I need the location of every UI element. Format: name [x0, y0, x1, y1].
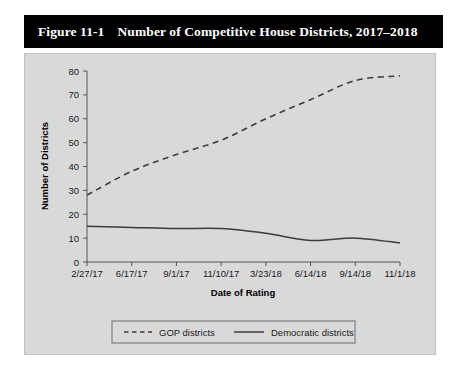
x-axis-title: Date of Rating [211, 287, 276, 298]
x-tick-label: 2/27/17 [71, 268, 103, 279]
series-line-democratic [87, 226, 400, 243]
chart-plot-area: 01020304050607080 2/27/176/17/179/1/1711… [0, 0, 467, 374]
x-tick-label: 6/14/18 [295, 268, 327, 279]
series-line-gop [87, 76, 400, 195]
y-tick-label: 70 [68, 89, 79, 100]
y-tick-label: 10 [68, 233, 79, 244]
line-chart-svg: 01020304050607080 2/27/176/17/179/1/1711… [0, 0, 467, 374]
y-tick-label: 80 [68, 66, 79, 77]
x-tick-label: 9/14/18 [339, 268, 371, 279]
y-tick-label: 0 [74, 257, 79, 268]
x-tick-label: 3/23/18 [250, 268, 282, 279]
figure-container: Figure 11-1Number of Competitive House D… [0, 0, 467, 374]
chart-legend: GOP districts Democratic districts [112, 321, 355, 343]
y-tick-label: 60 [68, 113, 79, 124]
x-tick-label: 11/1/18 [385, 268, 416, 279]
y-axis-title: Number of Districts [39, 122, 50, 210]
legend-label-democratic: Democratic districts [271, 327, 354, 338]
y-axis-ticks: 01020304050607080 [68, 66, 87, 268]
y-tick-label: 50 [68, 137, 79, 148]
y-tick-label: 20 [68, 209, 79, 220]
x-axis-ticks: 2/27/176/17/179/1/1711/10/173/23/186/14/… [71, 262, 415, 279]
legend-label-gop: GOP districts [159, 327, 215, 338]
y-tick-label: 40 [68, 161, 79, 172]
x-tick-label: 9/1/17 [163, 268, 189, 279]
x-tick-label: 6/17/17 [116, 268, 148, 279]
y-tick-label: 30 [68, 185, 79, 196]
x-tick-label: 11/10/17 [203, 268, 239, 279]
